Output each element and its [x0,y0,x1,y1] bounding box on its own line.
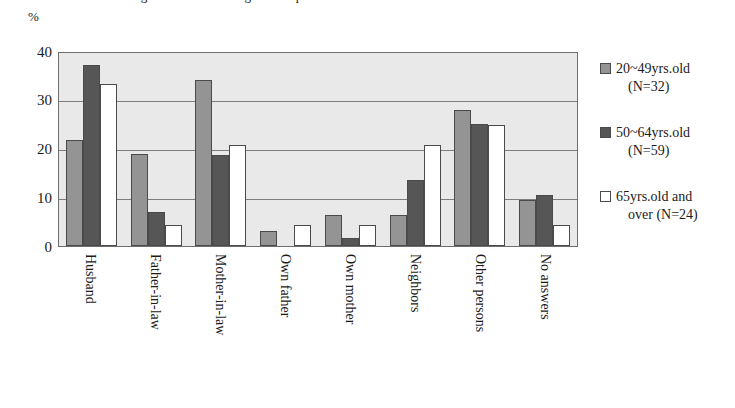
x-label-cell: Father-in-law [123,250,188,370]
bars-container [59,53,577,246]
bar-group [383,53,448,246]
x-label-cell: Husband [58,250,123,370]
bar-group [189,53,254,246]
legend-label-line2: (N=32) [628,78,735,96]
x-axis-label: Own mother [343,254,357,324]
chart-title-clipped: Figure 1 Persons living with respondents [130,0,550,3]
x-label-cell: Own mother [318,250,383,370]
y-axis-tick-labels: 40 30 20 10 0 [0,0,52,408]
legend-swatch-icon [600,63,611,74]
bar-chart: Figure 1 Persons living with respondents… [0,0,735,408]
bar [148,212,165,246]
x-label-cell: Neighbors [383,250,448,370]
x-axis-label: Own father [278,254,292,317]
legend-swatch-icon [600,127,611,138]
legend-item: 65yrs.old andover (N=24) [600,188,735,224]
plot-area [58,52,578,247]
x-label-cell: Mother-in-law [188,250,253,370]
x-axis-label: Other persons [473,254,487,332]
bar [342,238,359,246]
bar [424,145,441,246]
x-axis-label: Father-in-law [148,254,162,330]
legend-label-line2: over (N=24) [628,206,735,224]
bar [83,65,100,246]
bar [229,145,246,246]
x-label-cell: Other persons [448,250,513,370]
bar [131,154,148,246]
x-axis-labels: HusbandFather-in-lawMother-in-lawOwn fat… [58,250,578,370]
bar [488,125,505,246]
bar [294,225,311,246]
legend-item: 20~49yrs.old(N=32) [600,60,735,96]
x-axis-label: Husband [83,254,97,304]
bar [260,231,277,246]
legend-label-line2: (N=59) [628,142,735,160]
bar [195,80,212,246]
bar-group [512,53,577,246]
bar [325,215,342,246]
bar-group [124,53,189,246]
bar [407,180,424,246]
bar [553,225,570,246]
bar [536,195,553,246]
bar-group [318,53,383,246]
bar [359,225,376,246]
y-tick-20: 20 [8,142,52,157]
bar [454,110,471,246]
y-tick-10: 10 [8,191,52,206]
y-tick-30: 30 [8,93,52,108]
bar [66,140,83,246]
x-label-cell: Own father [253,250,318,370]
x-label-cell: No answers [513,250,578,370]
x-axis-label: Mother-in-law [213,254,227,335]
bar [471,124,488,246]
legend-swatch-icon [600,191,611,202]
chart-legend: 20~49yrs.old(N=32)50~64yrs.old(N=59)65yr… [600,60,735,252]
legend-label-line1: 65yrs.old and [616,188,735,206]
legend-item: 50~64yrs.old(N=59) [600,124,735,160]
bar-group [59,53,124,246]
x-axis-label: Neighbors [408,254,422,312]
chart-title-text: Figure 1 Persons living with respondents [130,0,550,3]
y-tick-0: 0 [8,240,52,255]
legend-label-line1: 50~64yrs.old [616,124,735,142]
x-axis-label: No answers [538,254,552,320]
bar [390,215,407,246]
bar-group [448,53,513,246]
y-tick-40: 40 [8,45,52,60]
bar-group [253,53,318,246]
bar [519,200,536,246]
legend-label-line1: 20~49yrs.old [616,60,735,78]
bar [165,225,182,246]
bar [100,84,117,246]
bar [212,155,229,246]
